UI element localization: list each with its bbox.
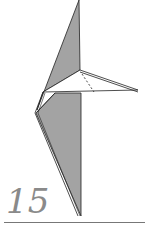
baseline-rule: [4, 222, 145, 223]
step-number: 15: [6, 184, 49, 218]
